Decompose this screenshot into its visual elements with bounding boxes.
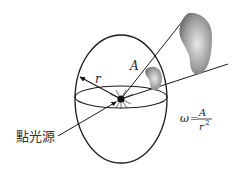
area-patch-large	[179, 13, 212, 74]
svg-text:=: =	[190, 113, 198, 124]
point-source-label: 點光源	[16, 129, 55, 144]
svg-text:A: A	[198, 107, 206, 118]
svg-text:ω: ω	[180, 112, 189, 125]
solid-angle-formula: ω = A r 2	[180, 107, 212, 132]
svg-text:2: 2	[205, 119, 209, 127]
source-leader-line	[58, 102, 116, 136]
solid-angle-diagram: r A 點光源 ω = A r 2	[0, 0, 240, 176]
point-source-dot	[117, 95, 124, 102]
radius-label: r	[95, 72, 102, 86]
area-label: A	[129, 59, 139, 73]
area-patch-small	[145, 67, 162, 91]
